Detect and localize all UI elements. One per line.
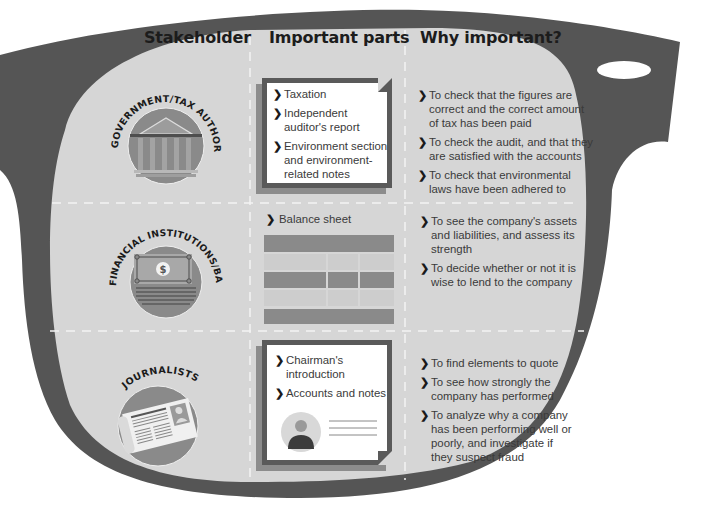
part-item: ❯Accounts and notes	[275, 386, 393, 400]
chevron-icon: ❯	[418, 88, 427, 102]
chevron-icon: ❯	[420, 214, 429, 228]
important-parts-card-government: ❯Taxation ❯Independentauditor's report ❯…	[262, 78, 392, 188]
banknote-icon: $	[130, 246, 202, 318]
reason-item: ❯To check that the figures arecorrect an…	[418, 88, 593, 130]
part-item: ❯Chairman'sintroduction	[275, 353, 393, 381]
dollar-sign: $	[160, 264, 167, 275]
chevron-icon: ❯	[418, 135, 427, 149]
part-item: ❯Environment sectionand environment-rela…	[273, 139, 393, 181]
chevron-icon: ❯	[266, 213, 275, 225]
header-why-important: Why important?	[420, 28, 562, 47]
header-stakeholder: Stakeholder	[144, 28, 251, 47]
header-important-parts: Important parts	[269, 28, 409, 47]
reason-item: ❯To analyze why a companyhas been perfor…	[420, 408, 590, 464]
reasons-list-financial: ❯To see the company's assetsand liabilit…	[420, 214, 590, 294]
reasons-list-government: ❯To check that the figures arecorrect an…	[418, 88, 593, 201]
newspaper-icon	[116, 386, 198, 466]
government-building-icon	[128, 108, 204, 184]
chevron-icon: ❯	[420, 408, 429, 422]
chevron-icon: ❯	[275, 353, 284, 367]
page-fold-corner	[378, 78, 392, 92]
chevron-icon: ❯	[273, 139, 282, 153]
chevron-icon: ❯	[420, 356, 429, 370]
part-item-balance-sheet: ❯Balance sheet	[266, 212, 351, 226]
page-fold-corner	[378, 451, 392, 465]
temple-hinge-oval	[597, 61, 651, 79]
chevron-icon: ❯	[273, 87, 282, 101]
reason-item: ❯To find elements to quote	[420, 356, 590, 370]
reason-item: ❯To check that environmentallaws have be…	[418, 168, 593, 196]
part-item: ❯Taxation	[273, 87, 393, 101]
chevron-icon: ❯	[275, 386, 284, 400]
reason-item: ❯To decide whether or not it iswise to l…	[420, 261, 590, 289]
chevron-icon: ❯	[418, 168, 427, 182]
important-parts-card-journalists: ❯Chairman'sintroduction ❯Accounts and no…	[262, 340, 392, 465]
reason-item: ❯To check the audit, and that theyare sa…	[418, 135, 593, 163]
reason-item: ❯To see how strongly thecompany has perf…	[420, 375, 590, 403]
journalists-badge: JOURNALISTS	[100, 350, 230, 468]
chevron-icon: ❯	[420, 261, 429, 275]
reasons-list-journalists: ❯To find elements to quote ❯To see how s…	[420, 356, 590, 469]
reason-item: ❯To see the company's assetsand liabilit…	[420, 214, 590, 256]
financial-institutions-badge: FINANCIAL INSTITUTIONS/BANKS $	[100, 212, 230, 327]
person-profile-icon	[281, 411, 381, 453]
chevron-icon: ❯	[420, 375, 429, 389]
balance-sheet-table-icon	[264, 235, 394, 325]
government-tax-authorities-badge: GOVERNMENT/TAX AUTHORITIES	[100, 78, 230, 193]
part-item: ❯Independentauditor's report	[273, 106, 393, 134]
chevron-icon: ❯	[273, 106, 282, 120]
